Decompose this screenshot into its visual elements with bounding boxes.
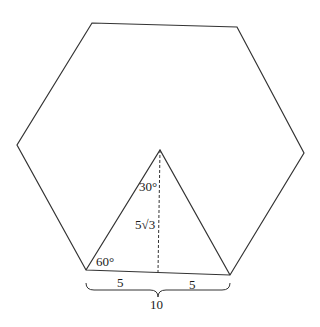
right-half-label: 5 xyxy=(189,277,196,292)
apex-angle-label: 30° xyxy=(139,179,157,194)
base-total-label: 10 xyxy=(150,297,163,312)
base-brace xyxy=(86,283,230,297)
altitude-dashed-line xyxy=(158,150,160,272)
height-label: 5√3 xyxy=(135,217,155,232)
hexagon xyxy=(17,23,304,275)
hexagon-diagram: 30° 5√3 60° 5 5 10 xyxy=(0,0,320,327)
base-angle-label: 60° xyxy=(96,254,114,269)
left-half-label: 5 xyxy=(117,275,124,290)
